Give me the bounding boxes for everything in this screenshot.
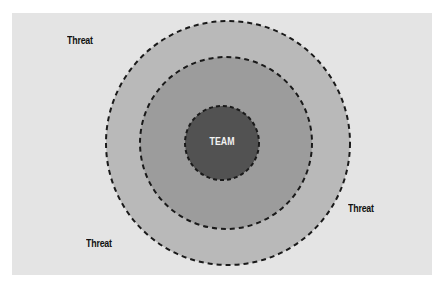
team-label: TEAM — [196, 136, 249, 147]
threat-label-bottom-left: Threat — [86, 238, 112, 249]
threat-label-right: Threat — [348, 203, 374, 214]
threat-label-top-left: Threat — [67, 35, 93, 46]
